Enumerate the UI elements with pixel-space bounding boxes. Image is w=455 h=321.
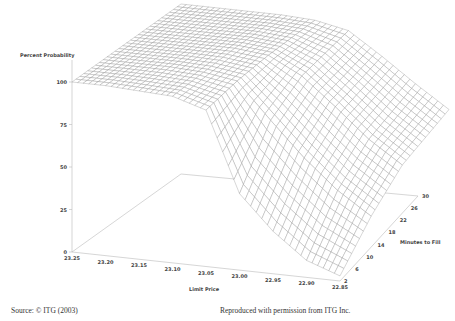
minutes-tick-label: 10 [366,254,373,260]
minutes-tick-label: 22 [400,217,407,223]
price-tick-label: 23.10 [165,266,181,272]
price-ticks: 23.2523.2023.1523.1023.0523.0022.9522.90… [64,255,348,290]
permission-caption: Reproduced with permission from ITG Inc. [220,306,350,315]
price-tick-label: 23.20 [98,259,114,265]
price-tick-label: 22.90 [299,280,315,286]
minutes-tick-label: 6 [355,266,359,272]
surface-chart: 0255075100 23.2523.2023.1523.1023.0523.0… [0,0,455,321]
price-axis-title: Limit Price [189,286,220,292]
probability-axis-title: Percent Probability [20,52,75,59]
probability-ticks: 0255075100 [57,79,72,255]
probability-tick-label: 25 [60,207,67,213]
minutes-tick-label: 2 [344,278,348,284]
minutes-tick-label: 30 [422,193,429,199]
price-tick-label: 22.95 [265,277,281,283]
price-axis-line [72,252,340,281]
minutes-tick-label: 14 [377,242,384,248]
probability-tick-label: 100 [57,79,68,85]
probability-tick-label: 50 [60,164,67,170]
minutes-tick-label: 18 [389,229,396,235]
minutes-tick-label: 26 [411,205,418,211]
minutes-axis-title: Minutes to Fill [400,239,441,245]
back-left-floor-line [72,174,181,252]
price-tick-label: 23.00 [232,273,248,279]
price-tick-label: 23.15 [131,262,147,268]
price-tick-label: 23.25 [64,255,80,261]
price-tick-label: 22.85 [332,284,348,290]
source-caption: Source: © ITG (2003) [11,306,78,315]
price-tick-label: 23.05 [198,270,214,276]
probability-tick-label: 75 [60,122,67,128]
